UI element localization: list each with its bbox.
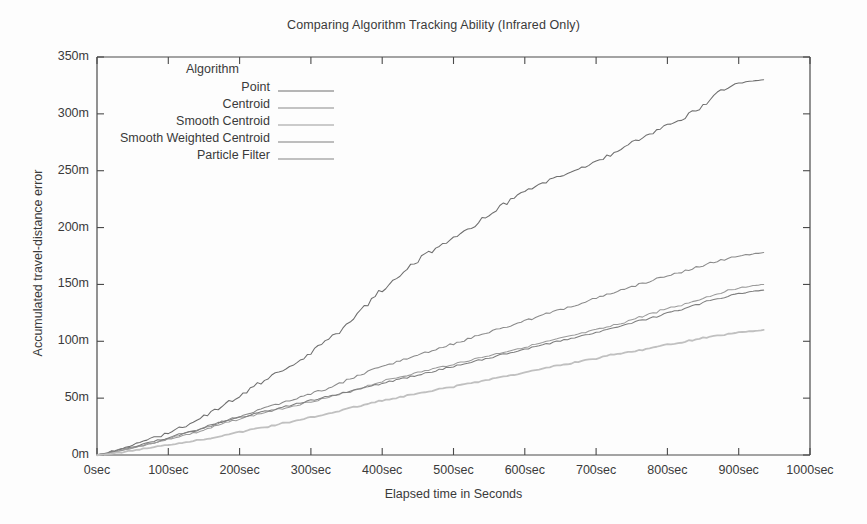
x-tick-label: 500sec <box>414 463 494 477</box>
legend-item[interactable]: Centroid <box>120 95 334 112</box>
legend-item[interactable]: Point <box>120 78 334 95</box>
legend-item[interactable]: Smooth Centroid <box>120 112 334 129</box>
x-tick-label: 200sec <box>200 463 280 477</box>
x-tick-label: 0sec <box>57 463 137 477</box>
x-tick-label: 700sec <box>556 463 636 477</box>
y-tick-label: 250m <box>27 163 89 177</box>
x-tick-label: 600sec <box>485 463 565 477</box>
legend: Algorithm PointCentroidSmooth CentroidSm… <box>120 62 334 163</box>
legend-entries: PointCentroidSmooth CentroidSmooth Weigh… <box>120 78 334 163</box>
legend-item-label: Centroid <box>223 97 278 111</box>
legend-item[interactable]: Particle Filter <box>120 146 334 163</box>
x-tick-label: 400sec <box>342 463 422 477</box>
x-tick-label: 100sec <box>128 463 208 477</box>
legend-color-swatch <box>278 150 334 160</box>
legend-item-label: Smooth Weighted Centroid <box>120 131 278 145</box>
x-tick-label: 1000sec <box>770 463 850 477</box>
legend-item[interactable]: Smooth Weighted Centroid <box>120 129 334 146</box>
series-line <box>97 284 764 455</box>
x-tick-label: 800sec <box>627 463 707 477</box>
series-line <box>97 330 764 455</box>
x-tick-label: 900sec <box>699 463 779 477</box>
legend-item-label: Particle Filter <box>197 148 278 162</box>
y-tick-label: 300m <box>27 106 89 120</box>
legend-item-label: Point <box>241 80 278 94</box>
y-tick-label: 200m <box>27 220 89 234</box>
y-tick-label: 50m <box>27 390 89 404</box>
y-tick-label: 350m <box>27 49 89 63</box>
legend-color-swatch <box>278 82 334 92</box>
y-tick-label: 100m <box>27 333 89 347</box>
legend-color-swatch <box>278 116 334 126</box>
y-tick-label: 150m <box>27 276 89 290</box>
series-line <box>97 253 764 455</box>
legend-title: Algorithm <box>186 62 334 76</box>
chart-figure: Comparing Algorithm Tracking Ability (In… <box>0 0 867 524</box>
y-tick-label: 0m <box>27 447 89 461</box>
legend-color-swatch <box>278 133 334 143</box>
legend-item-label: Smooth Centroid <box>176 114 278 128</box>
legend-color-swatch <box>278 99 334 109</box>
x-tick-label: 300sec <box>271 463 351 477</box>
